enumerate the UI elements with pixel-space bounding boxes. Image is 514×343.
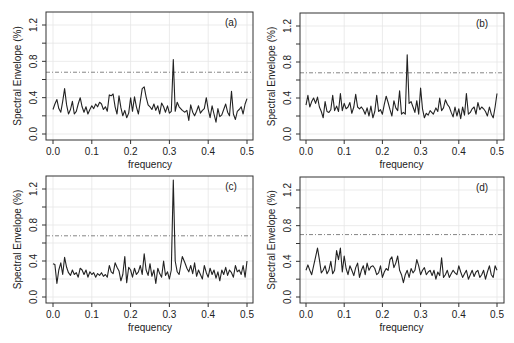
figure: 0.00.10.20.30.40.5frequency0.00.40.81.2S… bbox=[0, 0, 514, 343]
y-tick-label: 0.0 bbox=[282, 290, 293, 304]
envelope-curve bbox=[306, 248, 497, 283]
y-tick-label: 1.2 bbox=[28, 18, 39, 32]
y-axis: 0.00.40.81.2Spectral Envelope (%) bbox=[12, 18, 46, 141]
x-tick-label: 0.3 bbox=[414, 146, 428, 157]
y-tick-label: 0.4 bbox=[282, 91, 293, 105]
y-tick-label: 0.8 bbox=[282, 55, 293, 69]
x-tick-label: 0.3 bbox=[162, 146, 176, 157]
x-tick-label: 0.5 bbox=[490, 146, 504, 157]
x-tick-label: 0.0 bbox=[299, 146, 313, 157]
envelope-curve bbox=[306, 55, 497, 119]
y-axis: 0.00.40.81.2Spectral Envelope (%) bbox=[266, 183, 300, 304]
x-axis-label: frequency bbox=[380, 159, 424, 170]
x-axis: 0.00.10.20.30.40.5frequency bbox=[299, 303, 504, 333]
x-tick-label: 0.4 bbox=[452, 146, 466, 157]
panel-label: (a) bbox=[225, 17, 237, 28]
y-axis: 0.00.40.81.2Spectral Envelope (%) bbox=[12, 182, 46, 304]
grid bbox=[300, 177, 504, 303]
x-tick-label: 0.1 bbox=[337, 146, 351, 157]
y-tick-label: 1.2 bbox=[282, 19, 293, 33]
x-tick-label: 0.1 bbox=[85, 146, 99, 157]
y-tick-label: 0.0 bbox=[282, 127, 293, 141]
panel-label: (b) bbox=[476, 18, 488, 29]
x-tick-label: 0.3 bbox=[162, 309, 176, 320]
panel-c: 0.00.10.20.30.40.5frequency0.00.40.81.2S… bbox=[12, 176, 254, 333]
plot-frame bbox=[300, 177, 504, 303]
x-tick-label: 0.4 bbox=[452, 309, 466, 320]
panel-b: 0.00.10.20.30.40.5frequency0.00.40.81.2S… bbox=[266, 13, 504, 170]
x-tick-label: 0.5 bbox=[240, 309, 254, 320]
x-axis-label: frequency bbox=[380, 322, 424, 333]
x-axis: 0.00.10.20.30.40.5frequency bbox=[299, 140, 504, 170]
x-axis: 0.00.10.20.30.40.5frequency bbox=[46, 303, 254, 333]
y-tick-label: 0.8 bbox=[28, 218, 39, 232]
y-axis-label: Spectral Envelope (%) bbox=[12, 26, 23, 126]
y-tick-label: 0.8 bbox=[282, 218, 293, 232]
y-tick-label: 0.8 bbox=[28, 54, 39, 68]
panel-d: 0.00.10.20.30.40.5frequency0.00.40.81.2S… bbox=[266, 177, 504, 333]
x-tick-label: 0.0 bbox=[46, 309, 60, 320]
envelope-curve bbox=[53, 60, 247, 123]
x-axis-label: frequency bbox=[128, 159, 172, 170]
x-tick-label: 0.2 bbox=[375, 146, 389, 157]
y-tick-label: 1.2 bbox=[282, 183, 293, 197]
x-axis: 0.00.10.20.30.40.5frequency bbox=[46, 140, 254, 170]
x-tick-label: 0.4 bbox=[201, 309, 215, 320]
grid bbox=[46, 176, 253, 303]
y-axis-label: Spectral Envelope (%) bbox=[266, 190, 277, 290]
plot-frame bbox=[46, 176, 253, 303]
x-tick-label: 0.5 bbox=[490, 309, 504, 320]
envelope-curve bbox=[53, 180, 247, 284]
y-tick-label: 1.2 bbox=[28, 182, 39, 196]
grid bbox=[300, 13, 504, 140]
x-tick-label: 0.2 bbox=[124, 309, 138, 320]
x-axis-label: frequency bbox=[128, 322, 172, 333]
panel-label: (c) bbox=[225, 181, 237, 192]
x-tick-label: 0.1 bbox=[85, 309, 99, 320]
x-tick-label: 0.0 bbox=[46, 146, 60, 157]
y-axis-label: Spectral Envelope (%) bbox=[266, 27, 277, 127]
y-tick-label: 0.4 bbox=[28, 90, 39, 104]
y-tick-label: 0.4 bbox=[282, 254, 293, 268]
grid bbox=[46, 12, 253, 140]
y-axis: 0.00.40.81.2Spectral Envelope (%) bbox=[266, 19, 300, 141]
x-tick-label: 0.4 bbox=[201, 146, 215, 157]
panel-label: (d) bbox=[476, 182, 488, 193]
chart-canvas: 0.00.10.20.30.40.5frequency0.00.40.81.2S… bbox=[0, 0, 514, 343]
y-tick-label: 0.4 bbox=[28, 254, 39, 268]
x-tick-label: 0.2 bbox=[124, 146, 138, 157]
y-tick-label: 0.0 bbox=[28, 127, 39, 141]
x-tick-label: 0.5 bbox=[240, 146, 254, 157]
plot-frame bbox=[300, 13, 504, 140]
y-axis-label: Spectral Envelope (%) bbox=[12, 190, 23, 290]
plot-frame bbox=[46, 12, 253, 140]
panel-a: 0.00.10.20.30.40.5frequency0.00.40.81.2S… bbox=[12, 12, 254, 170]
x-tick-label: 0.1 bbox=[337, 309, 351, 320]
x-tick-label: 0.3 bbox=[414, 309, 428, 320]
y-tick-label: 0.0 bbox=[28, 290, 39, 304]
x-tick-label: 0.2 bbox=[375, 309, 389, 320]
x-tick-label: 0.0 bbox=[299, 309, 313, 320]
